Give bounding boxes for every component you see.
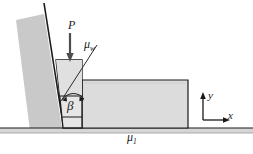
wedge-upper-shade — [56, 60, 82, 96]
label-ground-friction-coefficient: μ1 — [127, 131, 137, 146]
label-angle-beta: β — [67, 99, 73, 112]
mu-1-subscript: 1 — [133, 137, 137, 146]
mechanics-figure: P μw β μ1 y x — [0, 0, 253, 154]
mu-w-subscript: w — [90, 44, 95, 53]
label-load-P: P — [68, 19, 75, 31]
label-wall-friction-coefficient: μw — [84, 38, 95, 53]
load-arrow — [66, 33, 73, 62]
large-block — [82, 80, 188, 128]
axis-y-arrowhead — [200, 92, 206, 99]
coordinate-axes — [200, 92, 230, 123]
large-block-body — [82, 80, 188, 128]
label-axis-y: y — [208, 90, 213, 101]
label-axis-x: x — [228, 110, 233, 121]
